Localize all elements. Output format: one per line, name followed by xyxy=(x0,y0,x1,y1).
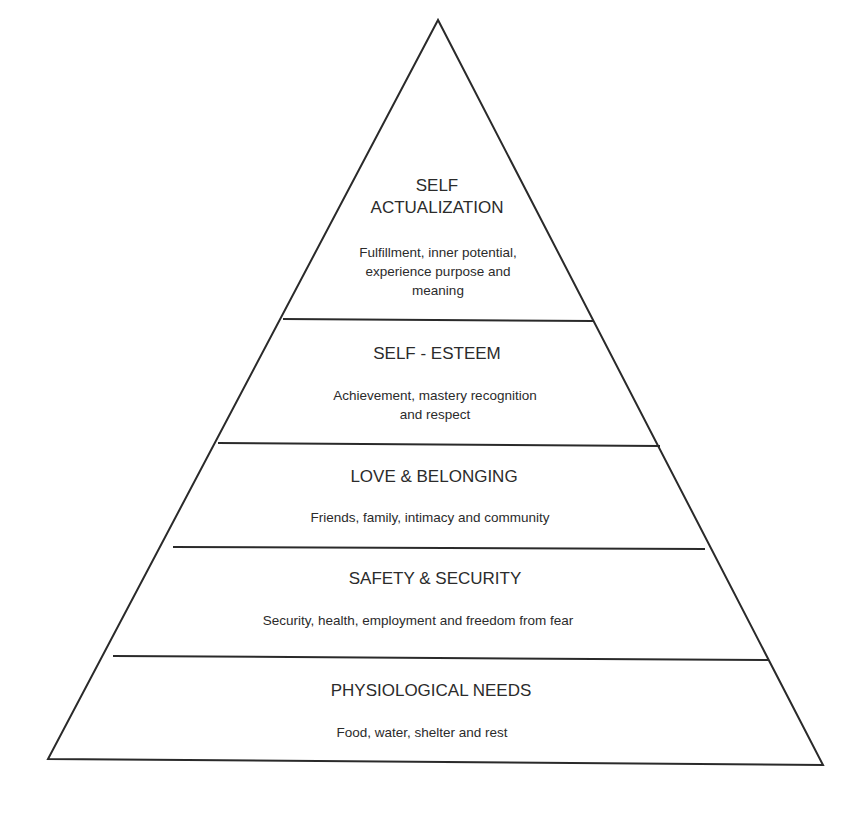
title-line: SELF - ESTEEM xyxy=(373,343,501,365)
description-line: and respect xyxy=(333,405,536,424)
level-safety-security-description: Security, health, employment and freedom… xyxy=(263,611,573,630)
description-line: Food, water, shelter and rest xyxy=(336,723,507,742)
level-love-belonging-description: Friends, family, intimacy and community xyxy=(310,508,549,527)
level-self-esteem-description: Achievement, mastery recognition and res… xyxy=(333,386,536,424)
description-line: experience purpose and xyxy=(359,262,517,281)
description-line: meaning xyxy=(359,281,517,300)
title-line: SAFETY & SECURITY xyxy=(349,568,522,590)
level-safety-security-title: SAFETY & SECURITY xyxy=(349,568,522,590)
level-physiological-needs-description: Food, water, shelter and rest xyxy=(336,723,507,742)
title-line: ACTUALIZATION xyxy=(371,197,504,219)
divider-4 xyxy=(113,656,768,660)
description-line: Friends, family, intimacy and community xyxy=(310,508,549,527)
level-self-actualization-description: Fulfillment, inner potential, experience… xyxy=(359,243,517,300)
title-line: SELF xyxy=(371,175,504,197)
divider-3 xyxy=(173,547,705,549)
title-line: PHYSIOLOGICAL NEEDS xyxy=(331,680,532,702)
divider-1 xyxy=(283,319,593,321)
level-self-actualization-title: SELF ACTUALIZATION xyxy=(371,175,504,219)
description-line: Fulfillment, inner potential, xyxy=(359,243,517,262)
title-line: LOVE & BELONGING xyxy=(350,466,517,488)
description-line: Achievement, mastery recognition xyxy=(333,386,536,405)
divider-2 xyxy=(218,443,660,446)
level-physiological-needs-title: PHYSIOLOGICAL NEEDS xyxy=(331,680,532,702)
level-love-belonging-title: LOVE & BELONGING xyxy=(350,466,517,488)
description-line: Security, health, employment and freedom… xyxy=(263,611,573,630)
level-self-esteem-title: SELF - ESTEEM xyxy=(373,343,501,365)
